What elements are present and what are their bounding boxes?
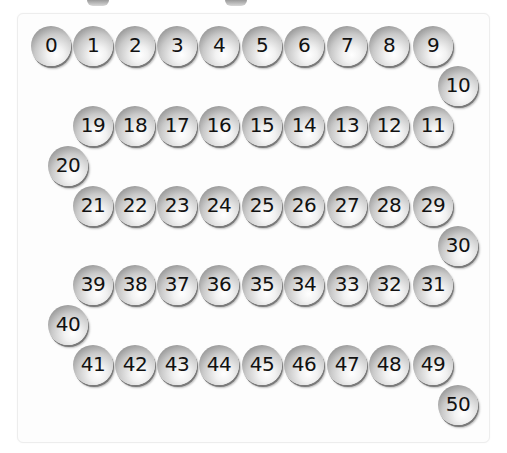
ball-number: 22 — [123, 193, 147, 217]
number-ball: 21 — [73, 186, 113, 226]
number-ball: 27 — [327, 186, 367, 226]
ball-number: 50 — [446, 392, 470, 416]
ball-number: 46 — [292, 352, 316, 376]
number-ball: 8 — [369, 26, 409, 66]
number-ball: 33 — [327, 265, 367, 305]
number-ball: 48 — [369, 345, 409, 385]
ball-number: 28 — [377, 193, 401, 217]
number-ball: 0 — [31, 26, 71, 66]
number-ball: 49 — [413, 345, 453, 385]
ball-number: 0 — [45, 33, 57, 57]
ball-number: 23 — [165, 193, 189, 217]
ball-number: 17 — [165, 113, 189, 137]
ball-number: 24 — [207, 193, 231, 217]
ball-number: 36 — [207, 272, 231, 296]
ball-number: 20 — [56, 153, 80, 177]
ball-number: 1 — [87, 33, 99, 57]
ball-number: 33 — [335, 272, 359, 296]
number-ball: 32 — [369, 265, 409, 305]
number-ball: 18 — [115, 106, 155, 146]
cropped-ball — [87, 0, 109, 6]
number-ball: 4 — [199, 26, 239, 66]
ball-number: 7 — [341, 33, 353, 57]
ball-number: 47 — [335, 352, 359, 376]
number-ball: 6 — [284, 26, 324, 66]
ball-number: 25 — [250, 193, 274, 217]
ball-number: 12 — [377, 113, 401, 137]
ball-number: 35 — [250, 272, 274, 296]
number-ball: 31 — [413, 265, 453, 305]
ball-number: 43 — [165, 352, 189, 376]
ball-number: 9 — [427, 33, 439, 57]
number-ball: 42 — [115, 345, 155, 385]
number-ball: 26 — [284, 186, 324, 226]
ball-number: 8 — [383, 33, 395, 57]
number-ball: 29 — [413, 186, 453, 226]
ball-number: 11 — [421, 113, 445, 137]
number-ball: 28 — [369, 186, 409, 226]
ball-number: 31 — [421, 272, 445, 296]
number-ball: 47 — [327, 345, 367, 385]
ball-number: 34 — [292, 272, 316, 296]
ball-number: 18 — [123, 113, 147, 137]
number-ball: 45 — [242, 345, 282, 385]
number-ball: 44 — [199, 345, 239, 385]
number-ball: 11 — [413, 106, 453, 146]
number-ball: 30 — [438, 226, 478, 266]
number-ball: 12 — [369, 106, 409, 146]
number-ball: 41 — [73, 345, 113, 385]
number-ball: 13 — [327, 106, 367, 146]
ball-number: 10 — [446, 73, 470, 97]
number-ball: 36 — [199, 265, 239, 305]
ball-number: 42 — [123, 352, 147, 376]
ball-number: 37 — [165, 272, 189, 296]
ball-number: 3 — [171, 33, 183, 57]
number-ball: 35 — [242, 265, 282, 305]
number-ball: 10 — [438, 66, 478, 106]
number-ball: 25 — [242, 186, 282, 226]
ball-number: 26 — [292, 193, 316, 217]
number-ball: 24 — [199, 186, 239, 226]
number-ball: 20 — [48, 146, 88, 186]
ball-number: 45 — [250, 352, 274, 376]
ball-number: 4 — [213, 33, 225, 57]
number-ball: 17 — [157, 106, 197, 146]
number-ball: 22 — [115, 186, 155, 226]
number-ball: 46 — [284, 345, 324, 385]
number-ball: 40 — [48, 305, 88, 345]
number-ball: 23 — [157, 186, 197, 226]
ball-number: 40 — [56, 312, 80, 336]
ball-number: 21 — [81, 193, 105, 217]
ball-number: 27 — [335, 193, 359, 217]
cropped-ball — [225, 0, 247, 6]
ball-number: 2 — [129, 33, 141, 57]
number-ball: 38 — [115, 265, 155, 305]
number-ball: 43 — [157, 345, 197, 385]
number-ball: 2 — [115, 26, 155, 66]
ball-number: 39 — [81, 272, 105, 296]
number-ball: 5 — [242, 26, 282, 66]
number-ball: 7 — [327, 26, 367, 66]
ball-number: 6 — [298, 33, 310, 57]
ball-number: 16 — [207, 113, 231, 137]
number-ball: 9 — [413, 26, 453, 66]
number-ball: 37 — [157, 265, 197, 305]
number-ball: 14 — [284, 106, 324, 146]
ball-number: 14 — [292, 113, 316, 137]
ball-number: 32 — [377, 272, 401, 296]
ball-number: 13 — [335, 113, 359, 137]
ball-number: 15 — [250, 113, 274, 137]
number-ball: 39 — [73, 265, 113, 305]
ball-number: 19 — [81, 113, 105, 137]
number-ball: 19 — [73, 106, 113, 146]
ball-number: 30 — [446, 233, 470, 257]
number-ball: 15 — [242, 106, 282, 146]
number-ball: 1 — [73, 26, 113, 66]
ball-number: 38 — [123, 272, 147, 296]
ball-number: 29 — [421, 193, 445, 217]
ball-number: 49 — [421, 352, 445, 376]
ball-number: 41 — [81, 352, 105, 376]
ball-number: 5 — [256, 33, 268, 57]
number-ball: 16 — [199, 106, 239, 146]
number-ball: 34 — [284, 265, 324, 305]
